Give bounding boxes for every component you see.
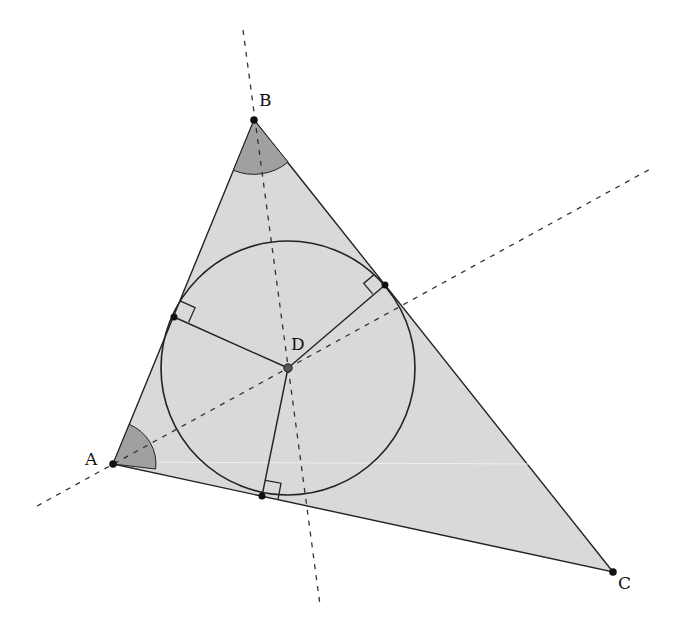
incircle-diagram: A B C D bbox=[0, 0, 685, 639]
tangent-point-ac bbox=[259, 493, 266, 500]
label-a: A bbox=[84, 449, 98, 469]
angle-b-marker bbox=[233, 120, 288, 174]
tangent-point-ab bbox=[171, 314, 178, 321]
vertex-c bbox=[609, 568, 617, 576]
label-b: B bbox=[259, 90, 272, 110]
triangle-abc bbox=[113, 120, 613, 572]
incenter-d bbox=[284, 364, 292, 372]
label-d: D bbox=[291, 334, 305, 354]
label-c: C bbox=[618, 573, 631, 593]
tangent-point-bc bbox=[382, 282, 389, 289]
vertex-a bbox=[109, 460, 117, 468]
vertex-b bbox=[250, 116, 258, 124]
